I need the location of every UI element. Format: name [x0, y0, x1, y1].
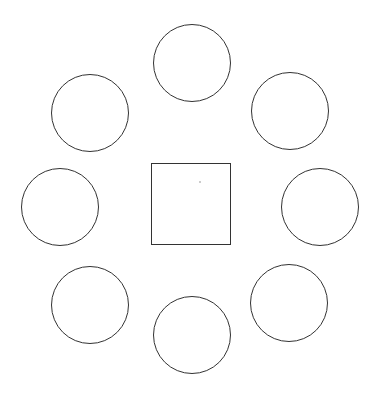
circle-lower-left [51, 266, 129, 344]
circle-bottom [153, 296, 231, 374]
circle-top [153, 24, 231, 102]
center-square [151, 163, 231, 245]
diagram-canvas [0, 0, 376, 398]
circle-lower-right [250, 264, 328, 342]
circle-upper-right [251, 72, 329, 150]
circle-left [21, 168, 99, 246]
circle-upper-left [51, 74, 129, 152]
circle-right [281, 168, 359, 246]
dot-marker [199, 181, 201, 183]
